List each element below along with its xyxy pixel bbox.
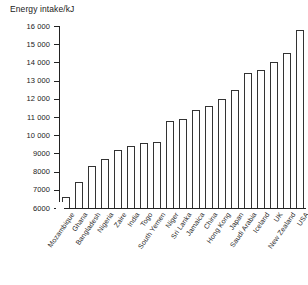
x-axis-label: USA xyxy=(295,211,308,227)
bar xyxy=(231,90,239,208)
bar xyxy=(205,106,213,208)
bar xyxy=(244,73,252,208)
y-axis-tick-label: 9000 xyxy=(33,149,50,158)
y-axis-tick-label: 11 000 xyxy=(27,113,50,122)
plot-area xyxy=(60,26,306,208)
bar xyxy=(283,53,291,208)
y-axis-tick-label: 8000 xyxy=(33,167,50,176)
y-axis-tick-label: 6000 xyxy=(33,204,50,213)
bar xyxy=(179,119,187,208)
energy-intake-bar-chart: Energy intake/kJ 600070008000900010 0001… xyxy=(0,0,308,285)
bar xyxy=(296,30,304,208)
x-axis-label: India xyxy=(126,211,141,228)
bar xyxy=(114,150,122,208)
bar xyxy=(127,146,135,208)
bar xyxy=(257,70,265,208)
y-axis-tick-label: 14 000 xyxy=(26,58,50,67)
chart-title: Energy intake/kJ xyxy=(10,4,74,14)
bar xyxy=(166,121,174,208)
bar xyxy=(153,142,161,208)
y-axis-tick-label: 16 000 xyxy=(26,22,50,31)
y-axis-break-marker xyxy=(56,202,64,209)
bar xyxy=(270,62,278,208)
bar xyxy=(218,99,226,208)
y-axis-tick-label: 15 000 xyxy=(26,40,50,49)
y-axis-tick-label: 13 000 xyxy=(26,76,50,85)
bar xyxy=(88,166,96,208)
y-axis-tick-label: 7000 xyxy=(33,185,50,194)
x-axis-label: Zaire xyxy=(113,211,128,228)
x-axis-category-labels: MozambiqueGhanaBangladeshNigeriaZaireInd… xyxy=(60,209,306,285)
x-axis-label: UK xyxy=(272,211,283,223)
bar xyxy=(101,159,109,208)
bar xyxy=(75,182,83,208)
bar xyxy=(140,143,148,208)
y-axis-tick-label: 10 000 xyxy=(26,131,50,140)
y-axis-tick-label: 12 000 xyxy=(26,94,50,103)
bar xyxy=(192,110,200,208)
